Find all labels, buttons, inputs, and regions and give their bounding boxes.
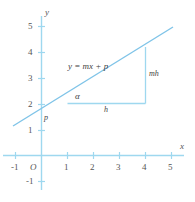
y-tick-label-2: 2 [28,100,33,109]
x-tick-label-5: 5 [168,163,173,172]
origin-label: O [30,163,37,172]
y-intercept-label: p [44,114,48,122]
y-tick-label-1: 1 [28,126,33,135]
x-tick-label-1: 1 [64,163,69,172]
equation-label: y = mx + p [68,62,108,71]
rise-mh-label: mh [149,70,159,78]
y-axis-name: y [45,8,49,17]
angle-alpha-label: α [75,92,80,101]
y-tick-label-4: 4 [28,48,33,57]
y-tick-label-5: 5 [28,22,33,31]
x-tick-label-neg1: -1 [11,163,19,172]
run-h-label: h [104,106,108,114]
y-tick-label-3: 3 [28,74,33,83]
x-tick-label-4: 4 [142,163,147,172]
x-tick-label-3: 3 [116,163,121,172]
x-axis-name: x [180,142,184,151]
linear-function-figure: -1 1 2 3 4 5 O 5 4 3 2 1 -1 y x y = mx +… [0,0,195,202]
y-tick-label-neg1: -1 [26,177,34,186]
x-tick-label-2: 2 [90,163,95,172]
